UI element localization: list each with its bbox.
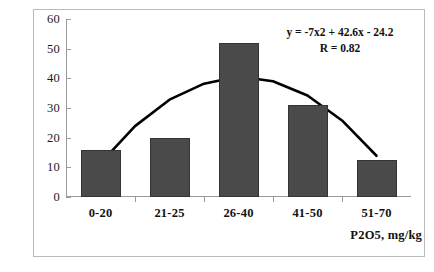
- bar: [288, 105, 328, 197]
- chart-figure: y = -7x2 + 42.6x - 24.2 R = 0.82 P2O5, m…: [0, 0, 434, 272]
- x-axis-category-label: 51-70: [361, 206, 391, 221]
- y-axis-tick-mark: [66, 19, 71, 20]
- x-axis-tick-mark: [135, 197, 136, 202]
- y-tick-text: 0: [54, 190, 60, 205]
- y-tick-text: 20: [47, 130, 60, 145]
- equation-text: y = -7x2 + 42.6x - 24.2: [258, 24, 422, 40]
- x-axis-tick-mark: [342, 197, 343, 202]
- x-axis-tick-mark: [273, 197, 274, 202]
- y-axis-tick-mark: [66, 78, 71, 79]
- x-axis-category-label: 0-20: [89, 206, 113, 221]
- y-axis-tick-mark: [66, 49, 71, 50]
- y-tick-text: 10: [47, 160, 60, 175]
- y-tick-text: 30: [47, 101, 60, 116]
- bar: [357, 160, 397, 197]
- x-axis-category-label: 21-25: [154, 206, 184, 221]
- y-axis-tick-mark: [66, 108, 71, 109]
- r-value-text: R = 0.82: [258, 40, 422, 56]
- bar: [81, 150, 121, 197]
- y-tick-text: 60: [47, 12, 60, 27]
- x-axis-category-label: 41-50: [292, 206, 322, 221]
- y-tick-text: 40: [47, 71, 60, 86]
- trendline-equation-annotation: y = -7x2 + 42.6x - 24.2 R = 0.82: [258, 24, 422, 56]
- x-axis-title: P2O5, mg/kg: [350, 228, 422, 243]
- x-axis-tick-mark: [204, 197, 205, 202]
- bar: [219, 43, 259, 197]
- x-axis-category-label: 26-40: [223, 206, 253, 221]
- y-axis-tick-mark: [66, 167, 71, 168]
- y-axis-tick-mark: [66, 138, 71, 139]
- y-tick-text: 50: [47, 41, 60, 56]
- bar: [150, 138, 190, 197]
- y-axis-tick-mark: [66, 197, 71, 198]
